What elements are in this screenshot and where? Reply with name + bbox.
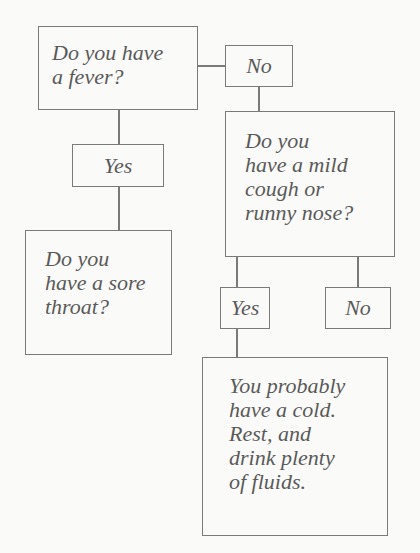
- connector-yes-to-sore-throat: [118, 187, 120, 230]
- node-cold-advice: You probably have a cold. Rest, and drin…: [202, 357, 388, 536]
- connector-yes-to-cold: [236, 329, 238, 357]
- node-fever-no-text: No: [246, 54, 272, 78]
- connector-cough-to-no: [357, 257, 359, 287]
- node-cough-text: Do you have a mild cough or runny nose?: [245, 129, 353, 225]
- node-fever-question: Do you have a fever?: [38, 26, 198, 110]
- node-fever-yes: Yes: [72, 144, 164, 187]
- connector-fever-to-no: [198, 65, 225, 67]
- node-cold-text: You probably have a cold. Rest, and drin…: [229, 374, 345, 494]
- node-cough-question: Do you have a mild cough or runny nose?: [225, 111, 395, 257]
- node-sore-throat-text: Do you have a sore throat?: [45, 247, 146, 319]
- node-fever-text: Do you have a fever?: [52, 41, 163, 89]
- connector-cough-to-yes: [236, 257, 238, 287]
- node-sore-throat-question: Do you have a sore throat?: [25, 230, 172, 355]
- connector-no-to-cough: [258, 87, 260, 111]
- node-cough-yes-text: Yes: [231, 296, 260, 320]
- node-cough-no: No: [325, 287, 391, 329]
- node-cough-no-text: No: [345, 296, 371, 320]
- node-fever-yes-text: Yes: [104, 154, 133, 178]
- node-cough-yes: Yes: [220, 287, 270, 329]
- node-fever-no: No: [225, 45, 293, 87]
- connector-fever-to-yes: [118, 110, 120, 144]
